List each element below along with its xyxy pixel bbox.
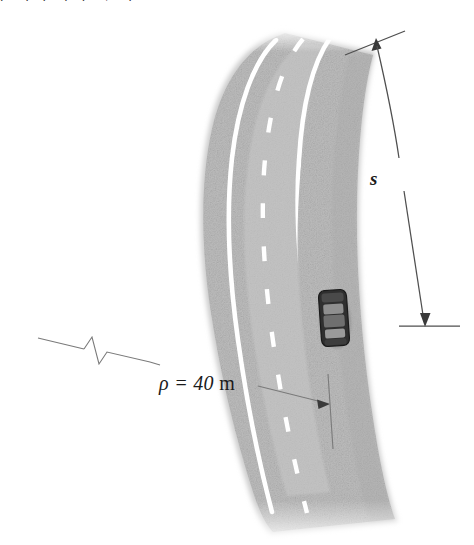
- arc-dimension-curve-upper: [377, 46, 399, 158]
- road-surface-group: [190, 26, 420, 545]
- radius-value: 40: [193, 372, 214, 394]
- road-fade-bottom: [230, 500, 420, 545]
- arc-length-label: s: [370, 168, 377, 190]
- road-diagram-svg: [0, 0, 474, 545]
- radius-leader-mid-segment: [150, 362, 160, 365]
- radius-label: ρ = 40 m: [159, 372, 235, 395]
- figure-canvas: p q p j p y q: [0, 0, 474, 545]
- car-rear-window: [325, 328, 346, 338]
- road-fade-top: [190, 26, 400, 52]
- radius-leader-break-zigzag: [84, 337, 150, 364]
- radius-symbol: ρ: [159, 372, 169, 394]
- radius-unit: m: [219, 372, 235, 394]
- arc-dimension-curve-lower: [404, 191, 423, 315]
- car-hood: [321, 292, 344, 303]
- car-roof: [323, 314, 345, 327]
- car-windshield: [323, 303, 344, 314]
- radius-leader-left-segment: [38, 338, 84, 349]
- radius-equals: =: [169, 372, 193, 394]
- arc-arrow-bottom: [420, 313, 431, 327]
